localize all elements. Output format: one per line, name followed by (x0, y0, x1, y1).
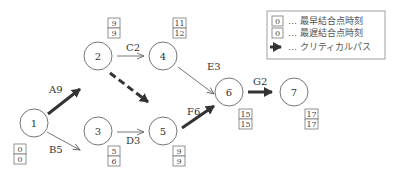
svg-text:5: 5 (111, 147, 116, 156)
svg-text:G2: G2 (253, 76, 267, 87)
edge-c2: C2 (117, 42, 144, 56)
time-box-node-1: 0 0 (14, 144, 26, 164)
time-box-node-7: 17 17 (305, 109, 318, 129)
time-box-node-3: 5 6 (108, 146, 120, 166)
legend-latest-sample: 0 (272, 28, 283, 38)
node-4: 4 (149, 42, 177, 70)
svg-text:17: 17 (306, 110, 316, 119)
network-diagram: A9 B5 C2 D3 E3 F6 G2 1 2 3 4 (0, 0, 397, 178)
svg-text:D3: D3 (126, 135, 140, 146)
svg-text:B5: B5 (49, 144, 63, 155)
legend-earliest-label: … 最早結合点時刻 (288, 15, 363, 26)
node-2: 2 (84, 42, 112, 70)
svg-text:15: 15 (240, 110, 250, 119)
legend-earliest-sample: 0 (272, 16, 283, 26)
svg-text:7: 7 (291, 87, 297, 98)
svg-text:C2: C2 (126, 42, 140, 53)
time-box-node-4: 11 12 (173, 18, 186, 38)
svg-text:9: 9 (176, 147, 181, 156)
node-7: 7 (280, 78, 308, 106)
svg-text:9: 9 (111, 19, 116, 28)
node-6: 6 (215, 78, 243, 106)
svg-text:A9: A9 (48, 84, 63, 95)
svg-text:6: 6 (226, 87, 232, 98)
svg-text:0: 0 (17, 155, 22, 164)
edge-e3: E3 (178, 61, 221, 94)
svg-text:12: 12 (174, 29, 184, 38)
edge-b5: B5 (47, 132, 80, 155)
edge-g2: G2 (248, 76, 272, 92)
svg-text:2: 2 (95, 51, 101, 62)
edge-f6: F6 (182, 106, 214, 128)
svg-text:3: 3 (95, 126, 101, 137)
time-box-node-6: 15 15 (239, 109, 252, 129)
edge-d3: D3 (117, 132, 144, 146)
time-box-node-2: 9 9 (108, 18, 120, 38)
legend-latest-label: … 最遅結合点時刻 (288, 27, 363, 38)
edge-dummy-2-5 (110, 73, 148, 102)
legend: 0 … 最早結合点時刻 0 … 最遅結合点時刻 … クリティカルパス (267, 11, 385, 59)
node-1: 1 (20, 109, 48, 137)
svg-text:17: 17 (306, 120, 316, 129)
svg-text:F6: F6 (187, 106, 200, 117)
svg-text:9: 9 (176, 157, 181, 166)
svg-text:9: 9 (111, 29, 116, 38)
svg-text:11: 11 (174, 19, 184, 28)
svg-text:4: 4 (160, 51, 166, 62)
svg-text:6: 6 (111, 157, 116, 166)
svg-text:5: 5 (160, 126, 166, 137)
svg-text:0: 0 (275, 17, 280, 26)
svg-text:0: 0 (17, 145, 22, 154)
svg-text:1: 1 (31, 118, 37, 129)
svg-text:15: 15 (240, 120, 250, 129)
edge-a9: A9 (48, 84, 80, 114)
svg-text:E3: E3 (207, 61, 221, 72)
node-5: 5 (149, 117, 177, 145)
svg-text:0: 0 (275, 29, 280, 38)
node-3: 3 (84, 117, 112, 145)
legend-critical-label: … クリティカルパス (288, 42, 371, 52)
time-box-node-5: 9 9 (173, 146, 185, 166)
